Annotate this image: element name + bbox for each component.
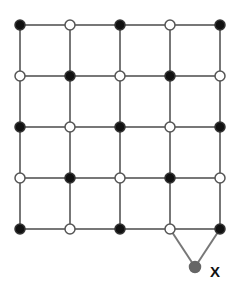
black-node	[15, 20, 25, 30]
white-node	[115, 173, 125, 183]
black-node	[215, 122, 225, 132]
black-node	[215, 20, 225, 30]
white-node	[115, 71, 125, 81]
white-node	[15, 173, 25, 183]
black-node	[165, 173, 175, 183]
white-node	[65, 20, 75, 30]
white-node	[215, 173, 225, 183]
white-node	[165, 20, 175, 30]
black-node	[115, 20, 125, 30]
white-node	[65, 122, 75, 132]
black-node	[115, 224, 125, 234]
white-node	[215, 71, 225, 81]
node-x	[190, 262, 201, 273]
white-node	[165, 224, 175, 234]
x-node-edge	[195, 229, 220, 267]
black-node	[65, 173, 75, 183]
white-node	[165, 122, 175, 132]
black-node	[165, 71, 175, 81]
black-node	[15, 224, 25, 234]
white-node	[15, 71, 25, 81]
black-node	[215, 224, 225, 234]
x-node-edge	[170, 229, 195, 267]
node-x-label: X	[210, 263, 220, 280]
black-node	[65, 71, 75, 81]
black-node	[115, 122, 125, 132]
white-node	[65, 224, 75, 234]
grid-graph-diagram: X	[0, 0, 240, 296]
black-node	[15, 122, 25, 132]
